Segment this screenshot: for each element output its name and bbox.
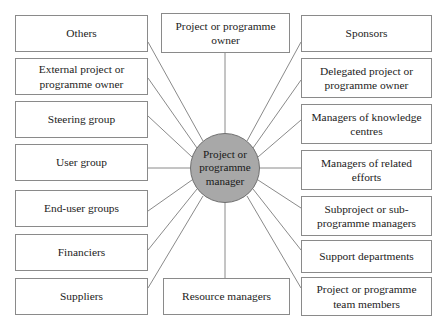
- center-node-project-or-programme-manager[interactable]: Project or programme manager: [190, 133, 260, 203]
- node-box-steering-group[interactable]: Steering group: [15, 101, 148, 138]
- node-box-subproject-or-sub-programme-managers[interactable]: Subproject or sub-programme managers: [301, 196, 432, 236]
- node-box-end-user-groups[interactable]: End-user groups: [15, 190, 148, 227]
- node-label: Project or programme owner: [165, 19, 286, 47]
- connector-steering-group: [148, 116, 192, 157]
- node-label: Subproject or sub-programme managers: [305, 202, 428, 230]
- connector-project-or-programme-team-members: [247, 196, 301, 288]
- node-label: Project or programme team members: [305, 282, 428, 310]
- node-box-managers-of-knowledge-centres[interactable]: Managers of knowledge centres: [301, 104, 432, 144]
- connector-end-user-groups: [148, 180, 192, 211]
- node-box-resource-managers[interactable]: Resource managers: [163, 278, 290, 315]
- node-label: End-user groups: [19, 201, 144, 215]
- node-box-project-or-programme-team-members[interactable]: Project or programme team members: [301, 277, 432, 316]
- center-node-label: Project or programme manager: [191, 148, 259, 188]
- node-box-sponsors[interactable]: Sponsors: [301, 15, 432, 52]
- node-label: Suppliers: [19, 289, 144, 303]
- stakeholder-diagram: OthersExternal project or programme owne…: [0, 0, 447, 330]
- node-box-suppliers[interactable]: Suppliers: [15, 278, 148, 315]
- node-label: Delegated project or programme owner: [305, 64, 428, 92]
- node-box-financiers[interactable]: Financiers: [15, 234, 148, 271]
- node-label: Resource managers: [167, 289, 286, 303]
- node-label: Managers of knowledge centres: [305, 110, 428, 138]
- node-label: Support departments: [305, 249, 428, 263]
- connector-financiers: [148, 189, 197, 250]
- node-box-support-departments[interactable]: Support departments: [301, 240, 432, 273]
- node-label: Steering group: [19, 112, 144, 126]
- node-label: Managers of related efforts: [305, 156, 428, 184]
- connector-managers-of-knowledge-centres: [258, 120, 301, 157]
- node-label: Financiers: [19, 245, 144, 259]
- connector-others: [148, 42, 203, 141]
- connector-sponsors: [247, 42, 301, 141]
- node-box-delegated-project-or-programme-owner[interactable]: Delegated project or programme owner: [301, 58, 432, 98]
- node-label: Sponsors: [305, 26, 428, 40]
- node-box-project-or-programme-owner[interactable]: Project or programme owner: [161, 13, 290, 53]
- connector-support-departments: [253, 189, 301, 250]
- node-label: Others: [19, 26, 144, 40]
- connector-delegated-project-or-programme-owner: [253, 80, 301, 148]
- node-box-external-project-or-programme-owner[interactable]: External project or programme owner: [15, 58, 148, 95]
- connector-external-project-or-programme-owner: [148, 78, 197, 148]
- connector-suppliers: [148, 196, 203, 288]
- node-label: External project or programme owner: [19, 62, 144, 90]
- node-box-others[interactable]: Others: [15, 15, 148, 52]
- node-box-managers-of-related-efforts[interactable]: Managers of related efforts: [301, 150, 432, 190]
- node-label: User group: [19, 155, 144, 169]
- node-box-user-group[interactable]: User group: [15, 144, 148, 181]
- connector-subproject-or-subprogramme-managers: [258, 180, 301, 208]
